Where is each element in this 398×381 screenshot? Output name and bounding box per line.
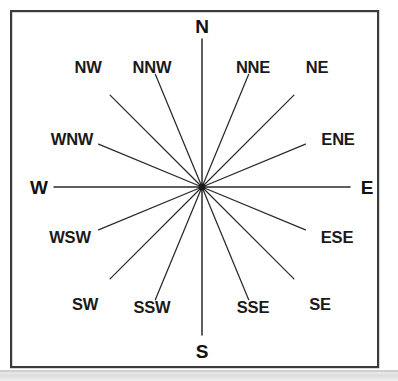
compass-label-s: S bbox=[196, 341, 209, 362]
compass-label-ene: ENE bbox=[321, 130, 355, 148]
scan-edge-strip bbox=[0, 372, 398, 381]
compass-label-nnw: NNW bbox=[133, 58, 172, 76]
compass-label-wsw: WSW bbox=[49, 228, 91, 246]
compass-center-hub bbox=[199, 184, 206, 191]
compass-label-e: E bbox=[361, 177, 374, 198]
compass-label-wnw: WNW bbox=[51, 130, 94, 148]
compass-label-sw: SW bbox=[72, 295, 99, 313]
compass-label-ese: ESE bbox=[321, 228, 354, 246]
compass-label-w: W bbox=[30, 177, 48, 198]
compass-label-nne: NNE bbox=[236, 58, 270, 76]
compass-figure: NNNENEENEEESESESSESSSWSWWSWWWNWNWNNW bbox=[0, 0, 398, 381]
compass-label-ssw: SSW bbox=[134, 298, 172, 316]
compass-label-sse: SSE bbox=[237, 298, 270, 316]
compass-label-nw: NW bbox=[74, 58, 102, 76]
compass-rose-diagram: NNNENEENEEESESESSESSSWSWWSWWWNWNWNNW bbox=[0, 0, 398, 381]
compass-label-se: SE bbox=[309, 295, 331, 313]
compass-label-ne: NE bbox=[306, 58, 329, 76]
compass-label-n: N bbox=[195, 16, 209, 37]
